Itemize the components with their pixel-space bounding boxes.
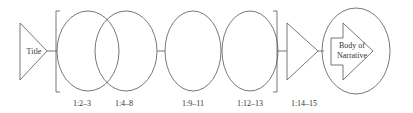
ellipse-1-4-8 xyxy=(95,11,157,91)
ellipse-1-9-11 xyxy=(165,11,221,91)
start-label: Title xyxy=(27,47,42,56)
segment-label: 1:4–8 xyxy=(115,99,133,108)
right-bracket xyxy=(273,11,277,92)
segment-label: 1:14–15 xyxy=(291,99,317,108)
ellipse-1-12-13 xyxy=(222,11,278,91)
segment-label: 1:2–3 xyxy=(73,99,91,108)
end-label-line2: Narrative xyxy=(337,51,368,60)
narrative-structure-diagram: Title Body of Narrative 1:2–3 1:4–8 1:9–… xyxy=(0,0,413,113)
ellipse-1-2-3 xyxy=(57,11,119,91)
segment-label: 1:9–11 xyxy=(182,99,204,108)
end-label-line1: Body of xyxy=(339,41,365,50)
segment-label: 1:12–13 xyxy=(237,99,263,108)
left-bracket xyxy=(56,11,60,92)
transition-triangle xyxy=(287,23,318,80)
